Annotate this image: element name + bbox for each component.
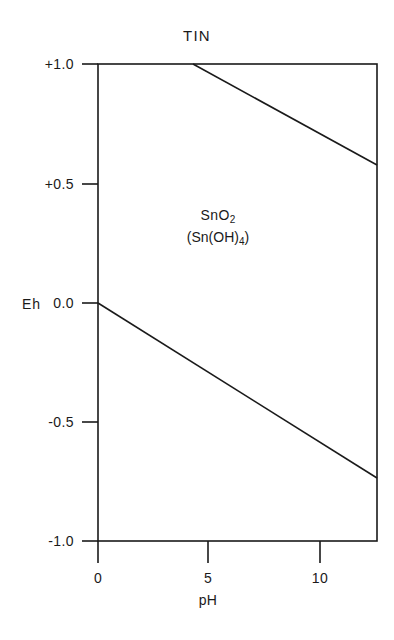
x-tick-label-0: 0 — [78, 570, 118, 586]
x-axis-label: pH — [188, 592, 228, 608]
y-tick-label-minus-1-0: -1.0 — [4, 533, 74, 549]
species-formula-alt: (Sn(OH)4) — [158, 227, 278, 249]
upper-boundary-line — [193, 64, 377, 165]
y-axis-ticks — [82, 64, 98, 541]
species-formula-alt-prefix: (Sn(OH) — [187, 229, 239, 245]
y-tick-label-plus-0-5: +0.5 — [4, 176, 74, 192]
species-formula-main-text: SnO — [201, 207, 230, 223]
y-tick-label-plus-1-0: +1.0 — [4, 56, 74, 72]
species-formula-main: SnO2 — [201, 207, 236, 223]
x-axis-ticks — [98, 541, 320, 563]
chart-title: TIN — [0, 27, 394, 44]
species-formula-main-subscript: 2 — [230, 214, 236, 225]
species-formula-alt-suffix: ) — [245, 229, 250, 245]
lower-boundary-line — [98, 303, 377, 478]
eh-ph-diagram-figure: TIN Eh +1.0 +0.5 0.0 -0.5 -1.0 0 5 10 pH… — [0, 0, 394, 640]
y-tick-label-minus-0-5: -0.5 — [4, 414, 74, 430]
x-tick-label-5: 5 — [188, 570, 228, 586]
plot-frame — [98, 64, 377, 541]
x-tick-label-10: 10 — [300, 570, 340, 586]
y-tick-label-0-0: 0.0 — [4, 295, 74, 311]
species-formula-alt-subscript: 4 — [239, 236, 245, 247]
species-field-label: SnO2 (Sn(OH)4) — [158, 205, 278, 249]
